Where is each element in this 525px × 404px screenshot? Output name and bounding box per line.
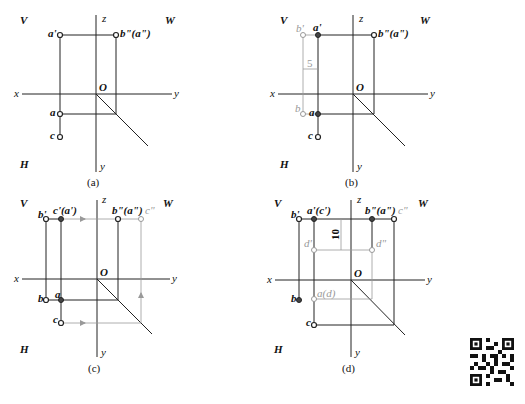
- label-H: H: [19, 343, 29, 355]
- axis-y-label: y: [173, 87, 179, 99]
- label-a: a: [50, 106, 56, 118]
- label-a-d: a(d): [317, 287, 336, 300]
- point-a-prime: [58, 33, 63, 38]
- caption-d: (d): [342, 362, 355, 375]
- label-H: H: [273, 343, 283, 355]
- 45-degree-line: [97, 279, 152, 334]
- axis-x-label: x: [13, 87, 19, 99]
- point-b2-a2: [116, 217, 121, 222]
- label-b: b: [38, 292, 44, 304]
- point-c: [316, 135, 321, 140]
- axis-y-down-label: y: [99, 160, 105, 172]
- point-b: [44, 298, 49, 303]
- origin-label: O: [354, 267, 362, 279]
- origin-label: O: [356, 81, 364, 93]
- label-b2-a2: b"(a"): [120, 27, 151, 40]
- label-b-prime: b': [38, 208, 47, 220]
- label-W: W: [418, 197, 429, 209]
- point-c2: [139, 217, 144, 222]
- panel-d: V W H x y y z O 10 b' a'(c') b"(a"): [266, 193, 432, 375]
- label-c2: c": [398, 204, 408, 216]
- point-a: [58, 112, 63, 117]
- axis-y-label: y: [171, 272, 177, 284]
- label-V: V: [274, 197, 283, 209]
- label-b2-a2: b"(a"): [112, 204, 143, 217]
- point-c-a-prime: [59, 217, 64, 222]
- label-c: c: [306, 316, 311, 328]
- 45-degree-line: [353, 94, 405, 146]
- label-H: H: [279, 158, 289, 170]
- axis-x-label: x: [13, 272, 19, 284]
- label-c: c: [53, 313, 58, 325]
- point-b2-a2: [372, 33, 377, 38]
- point-d2: [370, 248, 375, 253]
- axis-z-label: z: [101, 193, 107, 205]
- panel-a: V W H x y y z O a' b"(a") a c (a): [13, 12, 179, 189]
- projection-figure: V W H x y y z O a' b"(a") a c (a) V W H …: [0, 0, 525, 404]
- axis-y-down-label: y: [354, 346, 360, 358]
- label-b-prime: b': [296, 22, 305, 34]
- label-c: c: [50, 129, 55, 141]
- point-c: [312, 323, 317, 328]
- label-d-prime: d': [304, 237, 313, 249]
- panel-b: V W H x y y z O 5 b' a' b"(a") b a c (b): [269, 12, 435, 189]
- caption-b: (b): [345, 176, 358, 189]
- point-c2: [392, 217, 397, 222]
- point-c: [59, 321, 64, 326]
- caption-c: (c): [88, 362, 101, 375]
- label-H: H: [19, 158, 29, 170]
- label-c2: c": [145, 204, 155, 216]
- label-c-a-prime: c'(a'): [53, 204, 77, 217]
- point-a: [316, 112, 321, 117]
- axis-y-down-label: y: [100, 346, 106, 358]
- label-a: a: [309, 106, 315, 118]
- point-d-prime: [312, 248, 317, 253]
- axis-y-label: y: [429, 87, 435, 99]
- origin-label: O: [99, 81, 107, 93]
- axis-y-label: y: [426, 273, 432, 285]
- label-b2-a2: b"(a"): [378, 27, 409, 40]
- label-V: V: [20, 197, 29, 209]
- label-b: b: [295, 102, 301, 114]
- label-b-prime: b': [291, 208, 300, 220]
- axis-z-label: z: [101, 12, 107, 24]
- label-b2-a2: b"(a"): [365, 204, 396, 217]
- axis-x-label: x: [266, 273, 272, 285]
- label-a-c-prime: a'(c'): [307, 204, 331, 217]
- label-a: a: [55, 288, 61, 300]
- origin-label: O: [100, 266, 108, 278]
- label-d2: d": [376, 237, 387, 249]
- label-V: V: [280, 14, 289, 26]
- axis-x-label: x: [269, 87, 275, 99]
- point-a-d: [312, 297, 317, 302]
- axis-z-label: z: [358, 12, 364, 24]
- panel-c: V W H x y y z O b' c'(a') b"(a") c" b a: [13, 193, 177, 375]
- axis-z-label: z: [356, 193, 362, 205]
- point-b: [301, 112, 306, 117]
- label-V: V: [20, 14, 29, 26]
- point-b: [297, 298, 302, 303]
- label-W: W: [163, 197, 174, 209]
- axis-y-down-label: y: [356, 160, 362, 172]
- point-c: [58, 135, 63, 140]
- caption-a: (a): [87, 176, 100, 189]
- label-b: b: [291, 292, 297, 304]
- label-W: W: [420, 14, 431, 26]
- label-a-prime: a': [313, 21, 322, 33]
- 45-degree-line: [351, 280, 405, 335]
- 45-degree-line: [96, 94, 148, 146]
- point-b2-a2: [114, 33, 119, 38]
- point-a-c-prime: [312, 217, 317, 222]
- point-b2-a2: [370, 217, 375, 222]
- dimension-10: 10: [329, 229, 341, 241]
- point-a-prime: [316, 33, 321, 38]
- label-c: c: [308, 129, 313, 141]
- qr-code: [470, 337, 514, 387]
- label-W: W: [165, 14, 176, 26]
- label-a-prime: a': [48, 27, 57, 39]
- dimension-5: 5: [307, 57, 313, 69]
